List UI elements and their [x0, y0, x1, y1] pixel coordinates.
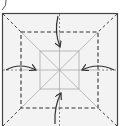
- step-label-mark: [2, 0, 6, 10]
- diagram-svg: [0, 0, 121, 126]
- origami-diagram: [0, 0, 121, 126]
